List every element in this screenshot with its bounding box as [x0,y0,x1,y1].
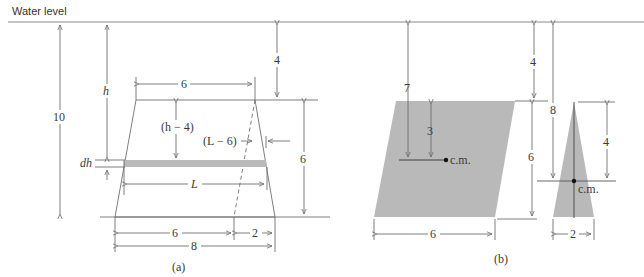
hydrostatic-force-diagram: Water level [0,0,644,277]
label-bottom-2: 2 [252,226,258,240]
caption-a: (a) [172,260,185,274]
triangle-cm-point [572,179,576,183]
label-height-6: 6 [300,152,306,166]
caption-b: (b) [494,252,508,266]
label-triangle-cm-from-top-4: 4 [603,135,609,149]
label-cm-from-top-3: 3 [427,124,433,138]
label-L-minus-6: (L − 6) [203,134,237,148]
label-b-top-depth-4: 4 [530,55,536,69]
label-top-depth-4: 4 [274,53,280,67]
label-parallelogram-width-6: 6 [430,227,436,241]
label-L: L [190,177,198,191]
parallelogram-cm-point [444,158,448,162]
label-dh: dh [80,156,92,170]
label-bottom-6: 6 [172,226,178,240]
shaded-strip [124,160,267,167]
label-h: h [103,84,109,98]
label-triangle-cm: c.m. [578,182,599,196]
label-depth-10: 10 [53,110,65,124]
split-dashed-line [234,100,255,217]
panel-a [60,25,330,252]
water-level: Water level [8,5,644,22]
label-top-width-6: 6 [181,77,187,91]
label-parallelogram-cm: c.m. [450,153,471,167]
triangle-plate [553,102,594,217]
panel-b [374,25,616,240]
label-triangle-cm-depth-8: 8 [550,103,556,117]
label-triangle-base-2: 2 [570,227,576,241]
trapezoid-plate [115,100,275,217]
label-cm-depth-7: 7 [404,81,410,95]
label-bottom-8: 8 [191,239,197,253]
water-level-label: Water level [12,5,67,17]
label-b-height-6: 6 [528,150,534,164]
label-h-minus-4: (h − 4) [161,120,194,134]
